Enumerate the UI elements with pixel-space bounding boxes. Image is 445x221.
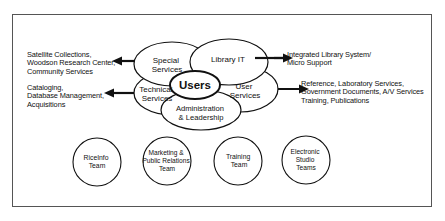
desc-line: Micro Support xyxy=(287,59,371,67)
desc-special-services: Satellite Collections, Woodson Research … xyxy=(27,51,115,76)
label-library-it: Library IT xyxy=(211,55,245,64)
label-administration: Administration & Leadership xyxy=(176,104,226,122)
label-technical-services: Technical Services xyxy=(139,85,175,103)
desc-line: Training, Publications xyxy=(301,97,424,105)
desc-technical-services: Cataloging, Database Management, Acquisi… xyxy=(27,84,104,109)
label-special-services: Special Services xyxy=(152,56,183,74)
desc-line: Community Services xyxy=(27,68,115,76)
label-users: Users xyxy=(179,79,211,91)
desc-library-it: Integrated Library System/ Micro Support xyxy=(287,51,371,68)
arrowhead-left-icon xyxy=(104,89,114,98)
arrow-technical xyxy=(104,89,137,98)
desc-line: Acquisitions xyxy=(27,101,104,109)
org-diagram: Special Services Library IT Technical Se… xyxy=(0,0,445,221)
desc-user-services: Reference, Laboratory Services, Governme… xyxy=(301,80,424,105)
